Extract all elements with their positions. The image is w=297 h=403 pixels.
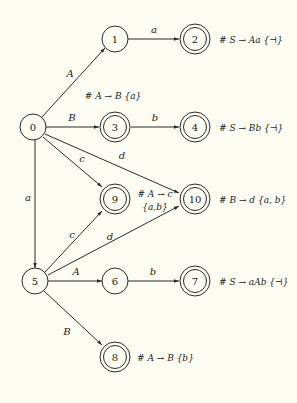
edge-label-5-8: B — [62, 326, 70, 337]
edge-5-9 — [45, 211, 102, 272]
state-4: 4 — [180, 112, 210, 142]
state-1: 1 — [102, 26, 128, 52]
annotation-state-9-production: # A → c — [137, 189, 172, 199]
state-8-label: 8 — [112, 352, 118, 363]
state-6: 6 — [102, 268, 128, 294]
edge-label-0-3: B — [67, 112, 75, 123]
annotation-state-10: # B → d {a, b} — [219, 195, 286, 205]
state-2: 2 — [180, 24, 210, 54]
edge-label-0-5: a — [25, 192, 31, 203]
edge-label-5-10: d — [107, 231, 113, 242]
state-10: 10 — [180, 184, 210, 214]
annotation-state-2: # S → Aa {⊣} — [219, 35, 283, 45]
annotation-state-4: # S → Bb {⊣} — [219, 123, 283, 133]
edge-label-0-10: d — [119, 150, 125, 161]
state-4-label: 4 — [192, 122, 198, 133]
state-3: 3 — [100, 112, 130, 142]
state-diagram: A a B b c d a c d A b B 0 1 2 3 — [0, 0, 297, 403]
nodes: 0 1 2 3 4 9 10 — [20, 24, 210, 372]
state-8: 8 — [100, 342, 130, 372]
state-5-label: 5 — [32, 276, 38, 287]
state-1-label: 1 — [112, 34, 118, 45]
edge-label-1-2: a — [151, 24, 157, 35]
state-10-label: 10 — [189, 194, 202, 205]
annotation-state-9-lookahead: {a,b} — [142, 202, 167, 212]
state-0: 0 — [20, 114, 46, 140]
state-9-label: 9 — [112, 194, 118, 205]
state-7-label: 7 — [192, 276, 198, 287]
annotation-state-7: # S → aAb {⊣} — [219, 277, 289, 287]
edge-label-3-4: b — [152, 112, 158, 123]
state-5: 5 — [22, 268, 48, 294]
state-6-label: 6 — [112, 276, 118, 287]
edge-0-1 — [42, 48, 105, 117]
edge-5-8 — [44, 291, 102, 345]
state-3-label: 3 — [112, 122, 118, 133]
state-7: 7 — [180, 266, 210, 296]
edge-0-9 — [43, 137, 102, 187]
edge-label-0-1: A — [65, 68, 73, 79]
state-0-label: 0 — [30, 122, 36, 133]
edge-label-0-9: c — [79, 153, 85, 164]
state-2-label: 2 — [192, 34, 198, 45]
state-9: 9 — [100, 184, 130, 214]
annotation-state-3: # A → B {a} — [85, 91, 141, 101]
edge-label-5-6: A — [71, 266, 79, 277]
edge-5-10 — [48, 206, 179, 275]
edge-label-6-7: b — [150, 266, 156, 277]
edge-label-5-9: c — [69, 229, 75, 240]
annotation-state-8: # A → B {b} — [137, 353, 194, 363]
